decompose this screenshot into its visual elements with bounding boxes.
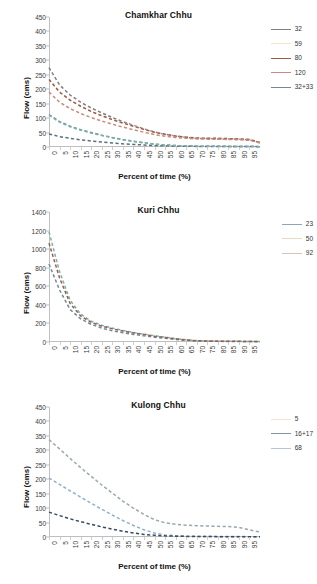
x-tick-label: 15	[83, 346, 90, 353]
legend-item[interactable]: 23	[282, 221, 313, 228]
y-tick-label: 400	[35, 28, 46, 35]
curve-group-2	[49, 212, 260, 342]
x-tick-label: 65	[188, 541, 195, 548]
series-curve	[49, 115, 260, 146]
x-tick-label: 10	[72, 151, 79, 158]
x-tick-label: 65	[188, 151, 195, 158]
x-tick-label: 60	[178, 346, 185, 353]
x-tick-label: 40	[135, 151, 142, 158]
x-tick-label: 75	[209, 541, 216, 548]
legend-swatch-icon	[271, 43, 291, 44]
legend-item[interactable]: 50	[282, 236, 313, 243]
x-tick-label: 70	[199, 346, 206, 353]
series-curve	[49, 243, 260, 342]
y-tick-label: 300	[35, 447, 46, 454]
curve-group-3	[49, 407, 260, 537]
legend-item[interactable]: 32	[271, 26, 313, 33]
series-curve	[49, 478, 260, 537]
x-tick-mark	[197, 147, 198, 150]
x-tick-label: 50	[157, 541, 164, 548]
x-tick-label: 10	[72, 346, 79, 353]
y-tick-mark	[46, 304, 49, 305]
legend-label: 68	[295, 445, 302, 452]
y-tick-label: 100	[35, 505, 46, 512]
y-axis-label-2: Flow (cms)	[22, 272, 31, 314]
x-tick-mark	[207, 537, 208, 540]
chart-block-kuri-chhu: Kuri Chhu Flow (cms) 0200400600800100012…	[0, 195, 317, 390]
legend-1: 32598012032+33	[271, 26, 313, 91]
x-tick-mark	[186, 342, 187, 345]
y-tick-label: 350	[35, 432, 46, 439]
x-tick-label: 95	[251, 346, 258, 353]
x-tick-mark	[123, 537, 124, 540]
y-tick-mark	[46, 230, 49, 231]
y-tick-mark	[46, 450, 49, 451]
x-tick-mark	[165, 342, 166, 345]
x-tick-mark	[60, 342, 61, 345]
x-tick-label: 50	[157, 346, 164, 353]
x-tick-label: 90	[241, 151, 248, 158]
x-axis-label-2: Percent of time (%)	[49, 367, 260, 376]
x-tick-label: 90	[241, 541, 248, 548]
y-tick-label: 600	[35, 283, 46, 290]
x-tick-label: 25	[104, 541, 111, 548]
legend-label: 80	[295, 55, 302, 62]
y-tick-mark	[46, 286, 49, 287]
x-tick-label: 10	[72, 541, 79, 548]
y-tick-label: 250	[35, 461, 46, 468]
x-tick-mark	[165, 537, 166, 540]
legend-label: 50	[306, 236, 313, 243]
x-tick-label: 70	[199, 151, 206, 158]
y-tick-label: 150	[35, 490, 46, 497]
x-tick-label: 30	[114, 541, 121, 548]
y-tick-label: 400	[35, 418, 46, 425]
x-tick-mark	[123, 342, 124, 345]
x-tick-label: 55	[167, 151, 174, 158]
y-tick-mark	[46, 522, 49, 523]
legend-item[interactable]: 59	[271, 41, 313, 48]
y-axis-label-3: Flow (cms)	[22, 466, 31, 508]
chart-block-kulong-chhu: Kulong Chhu Flow (cms) 05010015020025030…	[0, 390, 317, 584]
x-tick-mark	[102, 537, 103, 540]
x-tick-label: 85	[230, 346, 237, 353]
legend-3: 516+1768	[271, 416, 313, 452]
legend-item[interactable]: 80	[271, 55, 313, 62]
series-curve	[49, 440, 260, 532]
x-tick-label: 0	[51, 151, 58, 155]
x-tick-mark	[249, 537, 250, 540]
legend-swatch-icon	[271, 58, 291, 59]
legend-item[interactable]: 92	[282, 250, 313, 257]
x-tick-label: 30	[114, 151, 121, 158]
x-tick-label: 0	[51, 541, 58, 545]
x-tick-mark	[239, 342, 240, 345]
x-tick-mark	[218, 537, 219, 540]
y-tick-mark	[46, 267, 49, 268]
y-tick-mark	[46, 118, 49, 119]
x-tick-mark	[144, 147, 145, 150]
y-tick-mark	[46, 89, 49, 90]
y-tick-label: 50	[39, 519, 46, 526]
y-tick-label: 400	[35, 301, 46, 308]
x-tick-label: 35	[125, 346, 132, 353]
x-tick-mark	[176, 147, 177, 150]
legend-label: 32+33	[295, 84, 313, 91]
x-tick-mark	[70, 342, 71, 345]
x-tick-mark	[218, 147, 219, 150]
y-tick-label: 100	[35, 115, 46, 122]
legend-item[interactable]: 68	[271, 445, 313, 452]
x-tick-mark	[81, 147, 82, 150]
x-tick-mark	[133, 342, 134, 345]
x-tick-label: 20	[93, 346, 100, 353]
y-tick-label: 1400	[32, 209, 46, 216]
x-tick-mark	[176, 537, 177, 540]
y-tick-mark	[46, 60, 49, 61]
x-tick-label: 5	[62, 151, 69, 155]
x-tick-mark	[102, 342, 103, 345]
y-tick-mark	[46, 17, 49, 18]
legend-item[interactable]: 5	[271, 416, 313, 423]
x-tick-label: 25	[104, 151, 111, 158]
legend-item[interactable]: 120	[271, 70, 313, 77]
legend-item[interactable]: 32+33	[271, 84, 313, 91]
legend-item[interactable]: 16+17	[271, 431, 313, 438]
x-tick-mark	[239, 147, 240, 150]
